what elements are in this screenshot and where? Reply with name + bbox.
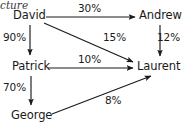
edge-label-andrew-laurent: 12% (157, 32, 180, 43)
edge-label-david-patrick: 90% (3, 32, 26, 43)
edge-george-laurent (52, 76, 151, 114)
edge-label-george-laurent: 8% (105, 95, 121, 106)
node-david[interactable]: David (13, 10, 46, 22)
node-andrew[interactable]: Andrew (139, 10, 182, 22)
edge-label-patrick-george: 70% (3, 82, 26, 93)
node-laurent[interactable]: Laurent (137, 61, 180, 73)
node-patrick[interactable]: Patrick (12, 61, 50, 73)
edge-label-david-andrew: 30% (78, 3, 101, 14)
node-george[interactable]: George (11, 110, 52, 122)
diagram-canvas: cture David Andrew Patrick Laurent Georg… (0, 0, 182, 126)
edge-label-patrick-laurent: 10% (78, 54, 101, 65)
edge-label-david-laurent: 15% (103, 32, 126, 43)
